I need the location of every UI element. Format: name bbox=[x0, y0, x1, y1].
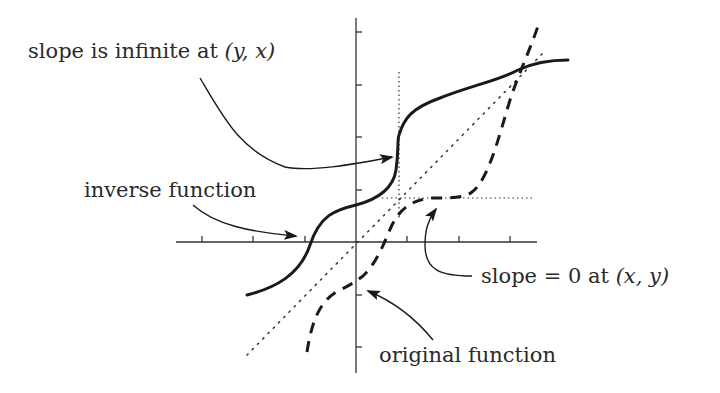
slope-infinite-text: slope is infinite at bbox=[28, 39, 225, 63]
diagram: slope is infinite at (y, x) inverse func… bbox=[0, 0, 720, 393]
slope-infinite-arrow bbox=[200, 78, 392, 169]
identity-line bbox=[247, 50, 546, 355]
slope-infinite-point: (y, x) bbox=[225, 39, 276, 63]
slope-zero-label: slope = 0 at (x, y) bbox=[481, 266, 669, 287]
y-axis-ticks bbox=[356, 32, 362, 347]
slope-infinite-label: slope is infinite at (y, x) bbox=[28, 41, 275, 62]
original-function-label: original function bbox=[379, 345, 556, 366]
inverse-function-curve bbox=[247, 60, 568, 295]
inverse-function-label: inverse function bbox=[84, 180, 256, 201]
slope-zero-text: slope = 0 at bbox=[481, 264, 616, 288]
inverse-function-arrow bbox=[193, 205, 296, 236]
original-function-arrow bbox=[368, 291, 433, 340]
slope-zero-point: (x, y) bbox=[616, 264, 669, 288]
